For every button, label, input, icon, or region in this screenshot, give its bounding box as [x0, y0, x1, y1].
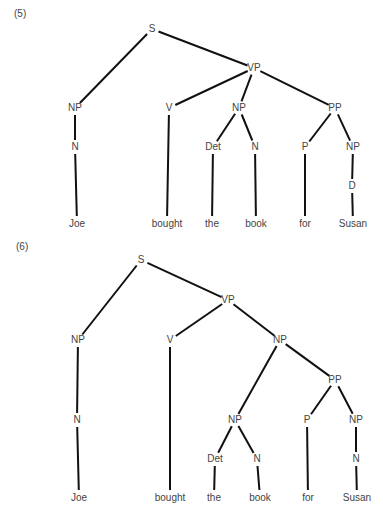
syntax-tree-canvas: (5)SNPVPNJoeVboughtNPDettheNbookPPPforNP… [0, 0, 383, 506]
tree-edge [338, 114, 350, 140]
leaf-word: the [205, 218, 219, 229]
tree-edge [75, 154, 77, 216]
tree-node-label: Det [205, 141, 221, 152]
tree-edge [311, 386, 331, 415]
tree-edge [356, 466, 357, 490]
tree-node-label: PP [328, 102, 342, 113]
tree-node-label: P [304, 414, 311, 425]
leaf-word: for [302, 492, 314, 503]
tree-node-label: VP [221, 294, 235, 305]
tree-edge [212, 154, 213, 216]
tree-edge [159, 32, 248, 66]
tree-edge [258, 466, 260, 490]
tree-node-label: D [348, 180, 355, 191]
example-number: (5) [14, 8, 26, 19]
tree-edge [255, 154, 256, 216]
tree-node-label: NP [232, 102, 246, 113]
tree-edge [175, 71, 247, 105]
leaf-word: book [245, 218, 268, 229]
tree-edge [80, 34, 147, 103]
tree-edge [260, 71, 328, 105]
tree-node-label: NP [71, 334, 85, 345]
leaf-word: for [299, 218, 311, 229]
tree-edge [352, 154, 353, 179]
leaf-word: Joe [69, 218, 86, 229]
tree-node-label: NP [228, 414, 242, 425]
tree-edge [338, 386, 352, 414]
tree-node-label: VP [247, 62, 261, 73]
tree-node-label: NP [68, 102, 82, 113]
tree-node-label: N [73, 414, 80, 425]
tree-edge [167, 115, 169, 216]
tree-edge [77, 427, 79, 490]
tree-node-label: V [166, 102, 173, 113]
tree-edge [218, 426, 232, 453]
tree-edge [352, 193, 353, 216]
tree-edge [147, 263, 221, 297]
example-number: (6) [16, 241, 28, 252]
tree-edge [238, 346, 276, 414]
leaf-word: Joe [71, 492, 88, 503]
leaf-word: the [207, 492, 221, 503]
tree-edge [238, 426, 253, 453]
leaf-word: book [249, 492, 272, 503]
tree-node-label: PP [328, 374, 342, 385]
tree-edge [82, 266, 136, 335]
tree-node-label: N [352, 453, 359, 464]
tree-node-label: S [149, 23, 156, 34]
tree-node-label: Det [207, 453, 223, 464]
syntax-tree-5: (5)SNPVPNJoeVboughtNPDettheNbookPPPforNP… [14, 8, 367, 229]
tree-edge [176, 304, 222, 336]
tree-edge [217, 114, 235, 141]
tree-edge [234, 304, 275, 335]
syntax-tree-6: (6)SNPVPNJoeVboughtNPPPNPDettheNbookPfor… [16, 241, 371, 503]
tree-node-label: N [71, 141, 78, 152]
tree-node-label: NP [273, 334, 287, 345]
tree-node-label: P [302, 141, 309, 152]
tree-edge [77, 347, 78, 413]
tree-edge [242, 115, 253, 141]
tree-node-label: S [138, 254, 145, 265]
tree-edge [242, 75, 252, 102]
tree-node-label: NP [346, 141, 360, 152]
leaf-word: Susan [343, 492, 371, 503]
tree-node-label: NP [349, 414, 363, 425]
tree-node-label: V [167, 334, 174, 345]
leaf-word: bought [152, 218, 183, 229]
tree-edge [214, 466, 215, 490]
tree-node-label: N [253, 453, 260, 464]
tree-edge [286, 344, 330, 376]
tree-edge [307, 427, 308, 490]
leaf-word: bought [155, 492, 186, 503]
tree-node-label: N [251, 141, 258, 152]
tree-edge [309, 114, 330, 142]
leaf-word: Susan [339, 218, 367, 229]
